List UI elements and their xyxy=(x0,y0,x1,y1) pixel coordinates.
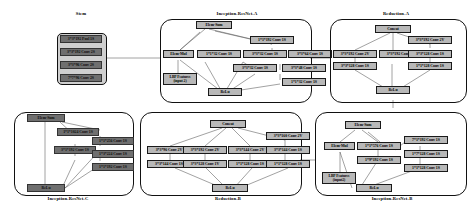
module-title-reduction-a: Reduction-A xyxy=(368,11,424,16)
irb-conv-1x1x128[interactable]: 1*1*128 Conv 1S xyxy=(404,164,448,172)
module-title-inception-resnet-c: Inception-ResNet-C xyxy=(26,196,110,201)
ira-conv-1x1x192[interactable]: 1*1*192 Conv 1S xyxy=(250,36,294,44)
irb-conv-1x7x128[interactable]: 1*7*128 Conv 1S xyxy=(404,150,448,158)
redb-concat[interactable]: Concat xyxy=(210,120,246,128)
ira-relu[interactable]: ReLu xyxy=(208,88,242,96)
reda-conv-3x3x128-left[interactable]: 3*3*128 Conv 1S xyxy=(333,62,377,70)
irb-conv-1x9x192[interactable]: 1*9*192 Conv 1S xyxy=(357,156,401,164)
stem-node-1[interactable]: 3*3*192 Conv 2S xyxy=(60,48,102,56)
irb-relu[interactable]: ReLu xyxy=(356,184,392,192)
ira-lbp-features[interactable]: LBP Features (input 2) xyxy=(163,73,197,85)
redb-conv-3x3x144-c4[interactable]: 3*3*144 Conv 1S xyxy=(266,146,310,154)
architecture-diagram: Stem 3*3*192 Pool 1S 3*3*192 Conv 2S 3*3… xyxy=(0,0,470,215)
irb-conv-1x1x576[interactable]: 1*1*576 Conv 1S xyxy=(357,142,401,150)
ira-conv-3x3x32-a[interactable]: 3*3*32 Conv 1S xyxy=(243,50,287,58)
irb-lbp-features[interactable]: LBP Features (input2) xyxy=(322,172,356,184)
ira-conv-1x1x32-a[interactable]: 1*1*32 Conv 1S xyxy=(197,50,241,58)
redb-conv-1x1x128-c4[interactable]: 1*1*128 Conv 1S xyxy=(266,160,310,168)
redb-conv-3x3x128-c2[interactable]: 3*3*128 Conv 1V xyxy=(183,160,227,168)
reda-conv-3x3x192-right[interactable]: 3*3*192 Conv 2V xyxy=(408,36,452,44)
reda-conv-1x1x128-right[interactable]: 1*1*128 Conv 1S xyxy=(408,62,452,70)
module-title-reduction-b: Reduction-B xyxy=(200,196,256,201)
ira-conv-3x3x48[interactable]: 3*3*48 Conv 1S xyxy=(282,64,326,72)
irc-relu[interactable]: ReLu xyxy=(27,184,65,192)
irb-lbp-line2: (input2) xyxy=(333,178,345,182)
redb-conv-3x3x192[interactable]: 3*3*192 Conv 2V xyxy=(183,146,227,154)
redb-relu[interactable]: ReLu xyxy=(212,184,248,192)
ira-lbp-line2: (input 2) xyxy=(173,79,186,83)
module-title-stem: Stem xyxy=(60,11,102,16)
ira-elem-mul[interactable]: Elem-Mul xyxy=(163,50,194,58)
irb-conv-7x1x192[interactable]: 7*1*192 Conv 1S xyxy=(404,136,448,144)
irc-conv-3x1x192[interactable]: 3*1*192 Conv 1S xyxy=(54,146,96,154)
stem-node-0[interactable]: 3*3*192 Pool 1S xyxy=(60,35,102,43)
irc-elem-sum[interactable]: Elem-Sum xyxy=(27,114,65,122)
ira-elem-sum[interactable]: Elem-Sum xyxy=(196,21,232,29)
irc-conv-1x1x1024[interactable]: 1*1*1024 Conv 1S xyxy=(57,128,99,136)
ira-conv-1x1x32-b[interactable]: 1*1*32 Conv 1S xyxy=(282,78,326,86)
reda-relu[interactable]: ReLu xyxy=(376,86,410,94)
irb-elem-sum[interactable]: Elem-Sum xyxy=(345,121,381,129)
reda-conv-3x3x128-right[interactable]: 3*3*128 Conv 1S xyxy=(408,50,452,58)
stem-node-2[interactable]: 3*3*96 Conv 2S xyxy=(60,61,102,69)
module-title-inception-resnet-b: Inception-ResNet-B xyxy=(350,196,434,201)
ira-conv-3x3x32-b[interactable]: 3*3*32 Conv 1S xyxy=(233,64,277,72)
redb-conv-3x3x160[interactable]: 3*3*160 Conv 2V xyxy=(266,132,310,140)
reda-concat[interactable]: Concat xyxy=(375,25,411,33)
irc-conv-1x3x224[interactable]: 1*3*224 Conv 1S xyxy=(92,150,134,158)
irc-conv-1x1x256[interactable]: 1*1*256 Conv 1S xyxy=(92,137,134,145)
reda-conv-3x3x192-left[interactable]: 3*3*192 Conv 2V xyxy=(333,50,377,58)
ira-conv-3x3x64[interactable]: 3*3*64 Conv 1S xyxy=(288,50,332,58)
stem-node-3[interactable]: 7*7*96 Conv 2S xyxy=(60,74,102,82)
irc-conv-1x1x192[interactable]: 1*1*192 Conv 1S xyxy=(92,163,134,171)
irb-elem-mul[interactable]: Elem-Mul xyxy=(324,142,355,150)
module-title-inception-resnet-a: Inception-ResNet-A xyxy=(192,11,282,16)
